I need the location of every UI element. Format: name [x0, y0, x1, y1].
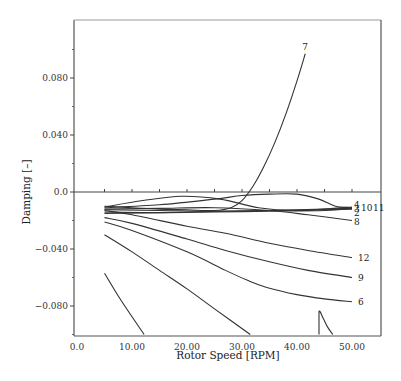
y-axis-title: Damping [–] [20, 160, 32, 225]
x-tick-label: 0.0 [70, 342, 85, 352]
x-tick-label: 40.00 [284, 342, 310, 352]
curve-1 [105, 273, 145, 334]
curve-label-11: 11 [373, 203, 384, 213]
damping-chart: 0.010.0020.0030.0040.0050.00−0.080−0.040… [0, 0, 401, 381]
x-axis-title: Rotor Speed [RPM] [176, 349, 279, 361]
y-tick-label: 0.080 [42, 73, 68, 83]
y-tick-label: −0.040 [35, 244, 69, 254]
axes-group [74, 20, 381, 336]
curve-labels-group: 7129684321011 [302, 42, 384, 307]
curve-9 [105, 218, 353, 278]
curve-label-10: 10 [361, 203, 373, 213]
curve-label-7: 7 [302, 42, 308, 52]
curve-7 [105, 54, 306, 211]
curve-13 [319, 311, 333, 334]
curve-5 [105, 235, 251, 335]
y-tick-label: −0.080 [35, 301, 69, 311]
curve-label-12: 12 [358, 253, 369, 263]
x-tick-label: 50.00 [339, 342, 365, 352]
x-tick-label: 10.00 [119, 342, 145, 352]
y-tick-label: 0.040 [42, 130, 68, 140]
y-tick-label: 0.0 [54, 187, 69, 197]
curve-label-9: 9 [358, 273, 364, 283]
curve-label-6: 6 [358, 297, 364, 307]
curve-label-8: 8 [354, 217, 360, 227]
curves-group [105, 54, 353, 335]
curve-label-2: 2 [354, 208, 360, 218]
